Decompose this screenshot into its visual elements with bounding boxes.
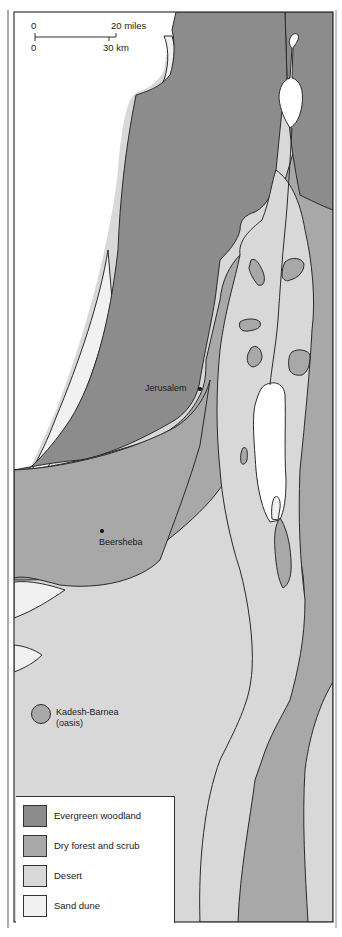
place-label-beersheba: Beersheba [99, 537, 143, 547]
map-legend: Evergreen woodland Dry forest and scrub … [16, 796, 175, 923]
legend-item-desert: Desert [23, 864, 82, 887]
legend-label: Evergreen woodland [54, 810, 141, 821]
legend-swatch-dry-forest [23, 835, 47, 857]
dry-forest-pocket-6 [241, 448, 248, 465]
scale-km-start: 0 [31, 43, 36, 53]
legend-swatch-sand-dune [23, 895, 47, 917]
legend-label: Dry forest and scrub [54, 840, 140, 851]
legend-label: Sand dune [54, 900, 100, 911]
dead-sea-lisan [272, 497, 281, 520]
legend-item-dry-forest: Dry forest and scrub [23, 834, 140, 857]
scale-miles-start: 0 [31, 21, 36, 31]
legend-swatch-desert [23, 865, 47, 887]
place-label-kadesh-barnea: Kadesh-Barnea [56, 707, 119, 717]
legend-item-evergreen-woodland: Evergreen woodland [23, 804, 141, 827]
beersheba-dot [100, 529, 104, 533]
scale-miles-end: 20 miles [111, 21, 146, 31]
place-label-jerusalem: Jerusalem [145, 383, 187, 393]
jerusalem-dot [198, 387, 202, 391]
legend-swatch-evergreen [23, 805, 47, 827]
legend-label: Desert [54, 870, 82, 881]
place-label-kadesh-barnea-note: (oasis) [56, 718, 83, 728]
scale-km-end: 30 km [103, 43, 129, 53]
legend-item-sand-dune: Sand dune [23, 894, 100, 917]
oasis-marker [32, 705, 51, 724]
